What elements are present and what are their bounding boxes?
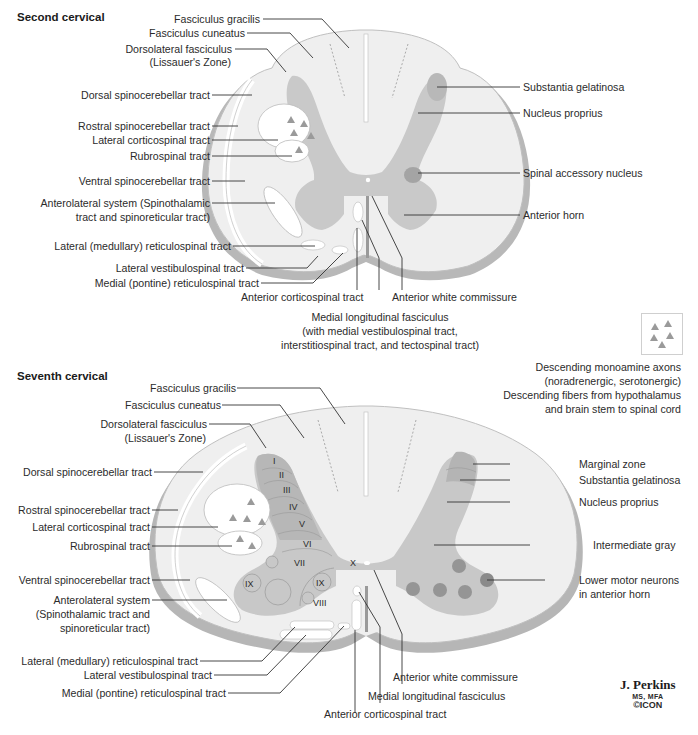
lamina-IX-lateral: IX: [245, 578, 254, 591]
lamina-IV: IV: [289, 501, 298, 514]
label-anterior-white-commissure-c7: Anterior white commissure: [393, 671, 518, 684]
label-lateral-vestibulospinal-c7: Lateral vestibulospinal tract: [84, 669, 212, 682]
label-mlf-c2-line3: interstitiospinal tract, and tectospinal…: [250, 338, 510, 352]
label-lateral-reticulospinal-c7: Lateral (medullary) reticulospinal tract: [21, 655, 198, 668]
lamina-VIII: VIII: [313, 597, 327, 610]
legend-line-4: and brain stem to spinal cord: [503, 402, 681, 416]
legend-triangles-icon: [641, 313, 683, 355]
lamina-V: V: [299, 518, 305, 531]
label-substantia-gelatinosa-c7: Substantia gelatinosa: [579, 474, 680, 487]
label-fasciculus-cuneatus-c2: Fasciculus cuneatus: [149, 27, 245, 40]
label-ventral-spinocerebellar-c7: Ventral spinocerebellar tract: [19, 574, 150, 587]
lamina-VII: VII: [294, 557, 305, 570]
label-nucleus-proprius-c7: Nucleus proprius: [579, 496, 659, 509]
lamina-IX-medial: IX: [316, 577, 325, 590]
label-anterolateral-system-c2-line2: tract and spinoreticular tract): [76, 211, 210, 224]
label-fasciculus-cuneatus-c7: Fasciculus cuneatus: [125, 399, 221, 412]
label-spinal-accessory-nucleus: Spinal accessory nucleus: [523, 167, 643, 180]
seventh-cervical-section: [149, 406, 583, 653]
label-mlf-c2: Medial longitudinal fasciculus: [250, 310, 510, 324]
label-lissauers-zone-c2: (Lissauer's Zone): [149, 56, 231, 69]
artist-degrees: MS, MFA: [620, 693, 676, 700]
label-lissauers-zone-c7: (Lissauer's Zone): [124, 432, 206, 445]
label-fasciculus-gracilis-c2: Fasciculus gracilis: [174, 13, 260, 26]
label-anterior-corticospinal-c7: Anterior corticospinal tract: [324, 708, 446, 721]
label-nucleus-proprius-c2: Nucleus proprius: [523, 107, 603, 120]
label-dorsal-spinocerebellar-c2: Dorsal spinocerebellar tract: [81, 89, 210, 102]
legend-line-1: Descending monoamine axons: [503, 360, 681, 374]
label-dorsolateral-fasciculus-c2: Dorsolateral fasciculus: [125, 43, 232, 56]
lamina-II: II: [279, 469, 284, 482]
label-lateral-corticospinal-c7: Lateral corticospinal tract: [32, 521, 150, 534]
artist-name: J. Perkins: [620, 677, 676, 693]
label-rostral-spinocerebellar-c7: Rostral spinocerebellar tract: [18, 504, 150, 517]
artist-signature: J. Perkins MS, MFA ©ICON: [620, 677, 676, 710]
label-dorsal-spinocerebellar-c7: Dorsal spinocerebellar tract: [23, 466, 152, 479]
label-lateral-reticulospinal-c2: Lateral (medullary) reticulospinal tract: [54, 240, 231, 253]
section-title-second-cervical: Second cervical: [17, 11, 105, 23]
label-mlf-c2-line2: (with medial vestibulospinal tract,: [250, 324, 510, 338]
label-anterolateral-system-c7: Anterolateral system: [53, 594, 150, 607]
label-fasciculus-gracilis-c7: Fasciculus gracilis: [150, 382, 236, 395]
label-anterolateral-system-c2: Anterolateral system (Spinothalamic: [40, 197, 210, 210]
label-marginal-zone-c7: Marginal zone: [579, 458, 646, 471]
lamina-I: I: [273, 455, 276, 468]
legend-line-2: (noradrenergic, serotonergic): [503, 374, 681, 388]
label-rubrospinal-c2: Rubrospinal tract: [130, 150, 210, 163]
label-rubrospinal-c7: Rubrospinal tract: [70, 540, 150, 553]
label-lower-motor-neurons-c7-line2: in anterior horn: [579, 588, 650, 601]
label-anterior-horn-c2: Anterior horn: [523, 209, 584, 222]
publisher-logo: ©ICON: [620, 700, 676, 710]
label-substantia-gelatinosa-c2: Substantia gelatinosa: [523, 81, 624, 94]
label-medial-reticulospinal-c2: Medial (pontine) reticulospinal tract: [95, 277, 259, 290]
label-lateral-vestibulospinal-c2: Lateral vestibulospinal tract: [116, 262, 244, 275]
label-dorsolateral-fasciculus-c7: Dorsolateral fasciculus: [100, 418, 207, 431]
label-anterolateral-system-c7-line3: spinoreticular tract): [60, 622, 150, 635]
label-rostral-spinocerebellar-c2: Rostral spinocerebellar tract: [78, 120, 210, 133]
label-intermediate-gray-c7: Intermediate gray: [593, 539, 675, 552]
lamina-III: III: [283, 484, 291, 497]
lamina-VI: VI: [303, 538, 312, 551]
legend-line-3: Descending fibers from hypothalamus: [503, 388, 681, 402]
label-anterior-white-commissure-c2: Anterior white commissure: [392, 291, 517, 304]
section-title-seventh-cervical: Seventh cervical: [17, 370, 108, 382]
second-cervical-section: [202, 30, 530, 280]
label-anterior-corticospinal-c2: Anterior corticospinal tract: [241, 291, 363, 304]
label-lateral-corticospinal-c2: Lateral corticospinal tract: [92, 134, 210, 147]
label-mlf-c7: Medial longitudinal fasciculus: [368, 690, 505, 703]
lamina-X: X: [350, 557, 356, 570]
label-lower-motor-neurons-c7: Lower motor neurons: [579, 574, 679, 587]
label-anterolateral-system-c7-line2: (Spinothalamic tract and: [36, 608, 150, 621]
label-medial-reticulospinal-c7: Medial (pontine) reticulospinal tract: [62, 687, 226, 700]
label-ventral-spinocerebellar-c2: Ventral spinocerebellar tract: [79, 175, 210, 188]
